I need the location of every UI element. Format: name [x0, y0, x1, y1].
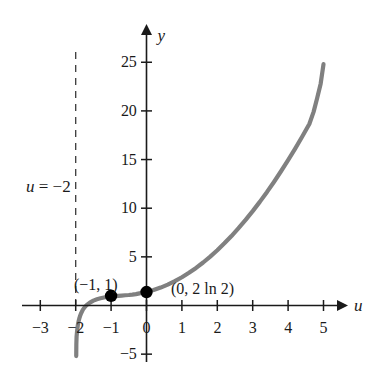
x-tick-label: −2 [66, 320, 86, 336]
x-axis-label: u [354, 297, 363, 314]
x-axis-arrow-icon [337, 300, 348, 311]
x-tick-label: 0 [137, 320, 157, 336]
x-tick-label: −3 [30, 320, 50, 336]
x-tick-label: −1 [101, 320, 121, 336]
asymptote-label: u = −2 [26, 178, 71, 195]
point-label-minus1-1: (−1, 1) [74, 277, 118, 293]
x-tick-label: 2 [207, 320, 227, 336]
point-label-0-2ln2: (0, 2 ln 2) [171, 281, 234, 297]
y-tick-label: 10 [101, 200, 137, 216]
graph-figure: y u u = −2 (−1, 1) (0, 2 ln 2) −3−2−1012… [0, 0, 382, 381]
asymptote-label-variable: u [26, 177, 35, 196]
y-tick-label: 20 [101, 103, 137, 119]
y-tick-label: 25 [101, 54, 137, 70]
y-axis-label: y [158, 27, 166, 44]
asymptote-label-value: = −2 [35, 177, 71, 196]
x-tick-label: 1 [172, 320, 192, 336]
y-tick-label: 15 [101, 152, 137, 168]
point-0-2ln2 [140, 286, 152, 298]
x-tick-label: 5 [314, 320, 334, 336]
x-tick-label: 4 [278, 320, 298, 336]
y-tick-label: 5 [101, 249, 137, 265]
x-tick-label: 3 [243, 320, 263, 336]
y-tick-label: −5 [101, 346, 137, 362]
y-axis-arrow-icon [141, 24, 152, 35]
